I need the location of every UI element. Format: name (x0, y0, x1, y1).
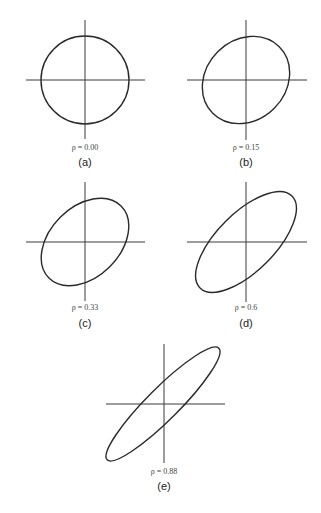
rho-label-c: ρ = 0.33 (72, 303, 99, 312)
panel-tag-a: (a) (78, 156, 91, 168)
panel-tag-e: (e) (157, 480, 170, 492)
panel-tag-b: (b) (239, 156, 252, 168)
rho-label-d: ρ = 0.6 (235, 303, 258, 312)
rho-label-b: ρ = 0.15 (233, 143, 260, 152)
panel-c: ρ = 0.33 (c) (24, 181, 146, 329)
correlation-ellipses-figure: ρ = 0.00 (a) ρ = 0.15 (b) ρ = 0.33 (c) ρ… (0, 0, 321, 513)
panel-a: ρ = 0.00 (a) (26, 20, 145, 168)
panel-e: ρ = 0.88 (e) (96, 337, 230, 492)
rho-label-e: ρ = 0.88 (151, 467, 178, 476)
panel-tag-c: (c) (79, 317, 92, 329)
panel-b: ρ = 0.15 (b) (184, 18, 307, 168)
panel-tag-d: (d) (239, 317, 252, 329)
panel-d: ρ = 0.6 (d) (180, 176, 313, 329)
rho-label-a: ρ = 0.00 (72, 143, 99, 152)
